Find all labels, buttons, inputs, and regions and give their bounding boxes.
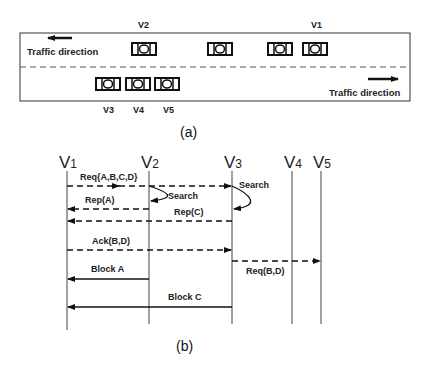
message-req-bd: Req(B,D) (232, 261, 320, 276)
svg-text:Rep(C): Rep(C) (174, 207, 204, 217)
vehicle-v4 (126, 78, 150, 90)
svg-text:Rep(A): Rep(A) (85, 195, 115, 205)
message-block-c: Block C (68, 292, 232, 307)
vehicle-v3 (96, 78, 120, 90)
vehicle-label-v4: V4 (133, 105, 144, 115)
message-rep-a: Rep(A) (68, 195, 149, 209)
figure: Traffic direction V2 V1 V3 V4 V5 Traffic… (0, 0, 427, 369)
caption-a: (a) (180, 124, 197, 140)
lifeline-header-v2: V2 (141, 153, 159, 172)
vehicle-label-v2: V2 (138, 20, 149, 30)
vehicle (268, 43, 292, 55)
svg-text:V3: V3 (224, 153, 242, 172)
lifeline-header-v5: V5 (313, 153, 331, 172)
sequence-diagram: V1 V2 V3 V4 V5 Req{A,B,C,D} Search Searc… (59, 153, 331, 330)
svg-text:V2: V2 (141, 153, 159, 172)
vehicle-v2 (132, 43, 156, 55)
svg-text:Req{A,B,C,D}: Req{A,B,C,D} (80, 172, 138, 182)
self-message-search-v2: Search (149, 186, 198, 201)
traffic-direction-upper: Traffic direction (27, 46, 98, 57)
svg-text:Req(B,D): Req(B,D) (246, 266, 285, 276)
svg-text:Block A: Block A (91, 264, 125, 274)
svg-text:Block C: Block C (168, 292, 202, 302)
message-block-a: Block A (68, 264, 149, 279)
svg-text:V4: V4 (284, 153, 302, 172)
lifeline-header-v1: V1 (59, 153, 77, 172)
lifeline-header-v3: V3 (224, 153, 242, 172)
vehicle-label-v5: V5 (163, 105, 174, 115)
traffic-direction-lower: Traffic direction (329, 87, 400, 98)
lifeline-header-v4: V4 (284, 153, 302, 172)
vehicle (208, 43, 232, 55)
message-rep-c: Rep(C) (68, 207, 232, 221)
svg-text:V5: V5 (313, 153, 331, 172)
road-diagram: Traffic direction V2 V1 V3 V4 V5 Traffic… (20, 20, 410, 115)
svg-text:Search: Search (168, 191, 198, 201)
caption-b: (b) (176, 338, 193, 354)
vehicle-v1 (303, 43, 327, 55)
svg-text:V1: V1 (59, 153, 77, 172)
self-message-search-v3: Search (232, 180, 269, 209)
svg-text:Ack(B,D): Ack(B,D) (92, 236, 130, 246)
vehicle-v5 (155, 78, 179, 90)
svg-text:Search: Search (239, 180, 269, 190)
vehicle-label-v1: V1 (311, 20, 322, 30)
vehicle-label-v3: V3 (103, 105, 114, 115)
